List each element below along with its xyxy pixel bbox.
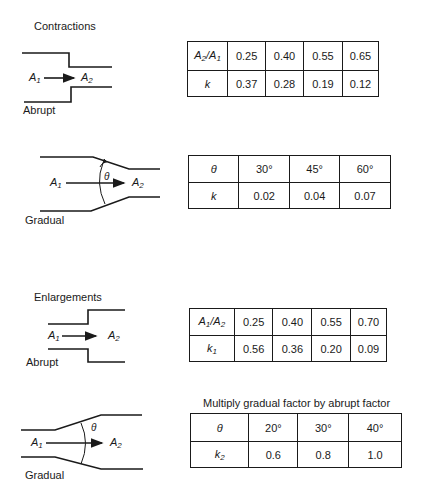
value-cell: 0.04 [290, 183, 340, 209]
gradual-enlargement-label: Gradual [25, 469, 64, 481]
gradual-contraction-label: Gradual [25, 214, 64, 226]
gradual-enlargement-a2-label: A2 [110, 436, 122, 450]
value-cell: 20° [249, 414, 298, 442]
abrupt-contraction-label: Abrupt [23, 104, 55, 116]
row-label-cell: k [189, 183, 239, 209]
value-cell: 0.6 [249, 442, 298, 468]
value-cell: 0.65 [342, 42, 378, 71]
value-cell: 30° [239, 156, 290, 183]
gradual-contraction-table: θ 30° 45° 60° k 0.02 0.04 0.07 [188, 155, 391, 209]
row-label-cell: k2 [191, 442, 249, 468]
abrupt-enlargement-a1-label: A1 [48, 329, 60, 343]
gradual-contraction-theta: θ [104, 171, 109, 182]
value-cell: 0.07 [340, 183, 391, 209]
abrupt-enlargement-label: Abrupt [26, 356, 58, 368]
value-cell: 0.36 [273, 336, 312, 362]
gradual-enlargement-a1-label: A1 [31, 436, 43, 450]
gradual-enlargement-theta: θ [91, 422, 96, 433]
value-cell: 30° [298, 414, 349, 442]
value-cell: 0.40 [266, 42, 304, 71]
value-cell: 0.56 [234, 336, 273, 362]
abrupt-enlargement-table: A1/A2 0.25 0.40 0.55 0.70 k1 0.56 0.36 0… [189, 308, 387, 362]
value-cell: 0.02 [239, 183, 290, 209]
abrupt-contraction-a1-label: A1 [29, 71, 41, 85]
row-label-cell: k1 [190, 336, 235, 362]
enlargements-title: Enlargements [34, 291, 102, 303]
header-label-cell: A1/A2 [190, 309, 235, 336]
value-cell: 0.09 [351, 336, 387, 362]
value-cell: 0.20 [312, 336, 351, 362]
value-cell: 0.12 [342, 71, 378, 97]
value-cell: 60° [340, 156, 391, 183]
value-cell: 0.8 [298, 442, 349, 468]
gradual-contraction-a1-label: A1 [50, 176, 62, 190]
value-cell: 0.70 [351, 309, 387, 336]
value-cell: 40° [349, 414, 402, 442]
header-label-cell: θ [191, 414, 249, 442]
value-cell: 45° [290, 156, 340, 183]
value-cell: 0.55 [304, 42, 343, 71]
gradual-enlargement-table: θ 20° 30° 40° k2 0.6 0.8 1.0 [190, 413, 402, 468]
row-label-cell: k [188, 71, 228, 97]
value-cell: 0.37 [228, 71, 266, 97]
abrupt-enlargement-a2-label: A2 [108, 329, 120, 343]
header-label-cell: θ [189, 156, 239, 183]
abrupt-contraction-a2-label: A2 [81, 71, 93, 85]
value-cell: 0.55 [312, 309, 351, 336]
value-cell: 0.25 [234, 309, 273, 336]
value-cell: 0.28 [266, 71, 304, 97]
value-cell: 1.0 [349, 442, 402, 468]
value-cell: 0.19 [304, 71, 343, 97]
value-cell: 0.40 [273, 309, 312, 336]
abrupt-contraction-table: A2/A1 0.25 0.40 0.55 0.65 k 0.37 0.28 0.… [187, 41, 379, 97]
contractions-title: Contractions [34, 20, 96, 32]
header-label-cell: A2/A1 [188, 42, 228, 71]
value-cell: 0.25 [228, 42, 266, 71]
gradual-contraction-a2-label: A2 [132, 176, 144, 190]
gradual-enlargement-note: Multiply gradual factor by abrupt factor [203, 397, 390, 409]
